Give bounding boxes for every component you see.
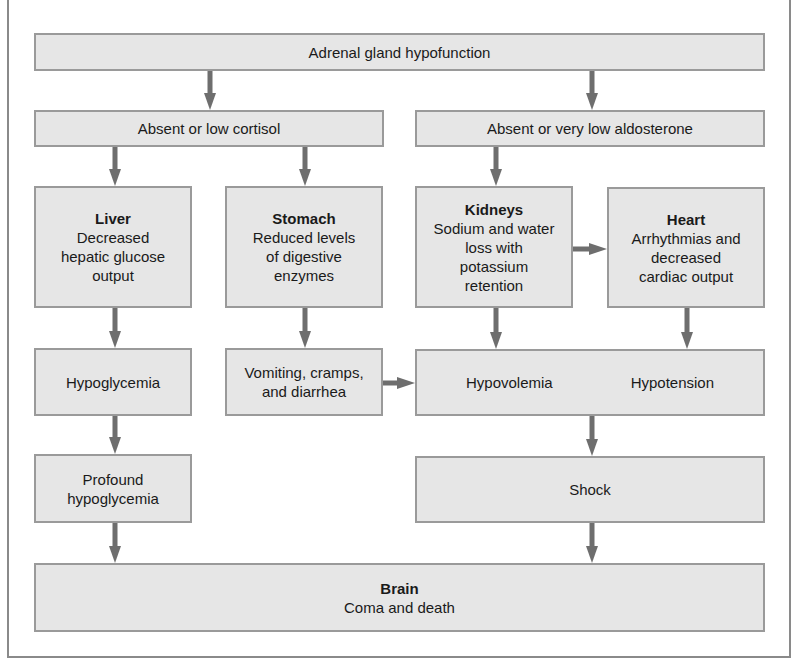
node-line: Profound — [83, 470, 144, 489]
node-hypotension-label: Hypotension — [631, 373, 714, 392]
node-line: loss with — [465, 238, 523, 257]
node-title: Heart — [667, 210, 705, 229]
arrow-down-icon — [490, 147, 502, 186]
node-line: decreased — [651, 248, 721, 267]
node-brain: Brain Coma and death — [34, 563, 765, 632]
arrow-down-icon — [586, 71, 598, 110]
node-adrenal-hypofunction: Adrenal gland hypofunction — [34, 33, 765, 71]
node-line: Vomiting, cramps, — [244, 363, 363, 382]
node-title: Stomach — [272, 209, 335, 228]
arrow-down-icon — [109, 523, 121, 563]
arrow-right-icon — [573, 243, 607, 255]
arrow-down-icon — [109, 308, 121, 348]
arrow-down-icon — [109, 416, 121, 454]
node-heart: Heart Arrhythmias and decreased cardiac … — [607, 187, 765, 308]
node-label: Hypoglycemia — [66, 373, 160, 392]
arrow-down-icon — [204, 71, 216, 110]
node-shock: Shock — [415, 456, 765, 523]
node-title: Liver — [95, 209, 131, 228]
diagram-frame — [7, 0, 791, 658]
node-title: Brain — [380, 579, 418, 598]
node-label: Absent or very low aldosterone — [487, 119, 693, 138]
node-line: cardiac output — [639, 267, 733, 286]
node-hypovolemia-hypotension: Hypovolemia Hypotension — [415, 349, 765, 416]
node-stomach: Stomach Reduced levels of digestive enzy… — [225, 186, 383, 308]
arrow-down-icon — [586, 523, 598, 563]
node-low-cortisol: Absent or low cortisol — [34, 110, 384, 147]
node-line: hypoglycemia — [67, 489, 159, 508]
arrow-down-icon — [299, 147, 311, 186]
arrow-down-icon — [490, 308, 502, 349]
node-line: hepatic glucose — [61, 247, 165, 266]
node-title: Kidneys — [465, 200, 523, 219]
node-line: potassium — [460, 257, 528, 276]
node-line: enzymes — [274, 266, 334, 285]
node-line: and diarrhea — [262, 382, 346, 401]
node-label: Adrenal gland hypofunction — [309, 43, 491, 62]
arrow-down-icon — [299, 308, 311, 348]
node-low-aldosterone: Absent or very low aldosterone — [415, 110, 765, 147]
node-line: of digestive — [266, 247, 342, 266]
arrow-down-icon — [681, 308, 693, 349]
node-line: Coma and death — [344, 598, 455, 617]
node-kidneys: Kidneys Sodium and water loss with potas… — [415, 186, 573, 308]
node-hypoglycemia: Hypoglycemia — [34, 348, 192, 416]
arrow-right-icon — [383, 377, 415, 389]
node-line: Decreased — [77, 228, 150, 247]
node-hypovolemia-label: Hypovolemia — [466, 373, 553, 392]
arrow-down-icon — [109, 147, 121, 186]
node-line: Sodium and water — [434, 219, 555, 238]
node-liver: Liver Decreased hepatic glucose output — [34, 186, 192, 308]
node-label: Absent or low cortisol — [138, 119, 281, 138]
node-profound-hypoglycemia: Profound hypoglycemia — [34, 454, 192, 523]
node-line: Reduced levels — [253, 228, 356, 247]
node-label: Shock — [569, 480, 611, 499]
node-line: Arrhythmias and — [631, 229, 740, 248]
node-vomiting: Vomiting, cramps, and diarrhea — [225, 348, 383, 416]
node-line: output — [92, 266, 134, 285]
node-line: retention — [465, 276, 523, 295]
arrow-down-icon — [586, 416, 598, 456]
